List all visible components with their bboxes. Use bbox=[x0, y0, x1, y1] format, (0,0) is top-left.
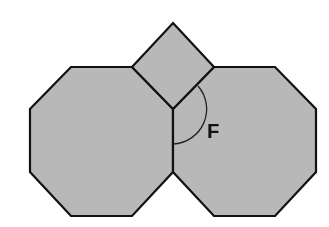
left-octagon bbox=[30, 67, 173, 216]
diagram-svg: F bbox=[0, 0, 329, 227]
angle-f-label: F bbox=[207, 120, 219, 142]
geometry-diagram: F bbox=[0, 0, 329, 227]
right-octagon bbox=[173, 67, 316, 216]
